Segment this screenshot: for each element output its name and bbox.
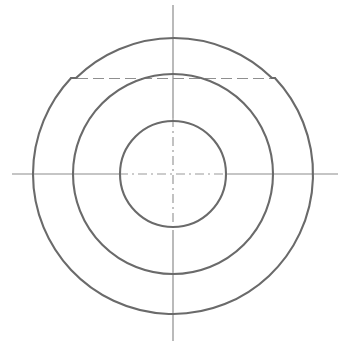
centerline-group [12, 5, 338, 341]
drawing-svg [0, 0, 351, 363]
inner-circle [120, 121, 226, 227]
outer-circle [76, 38, 272, 78]
technical-drawing-canvas [0, 0, 351, 363]
